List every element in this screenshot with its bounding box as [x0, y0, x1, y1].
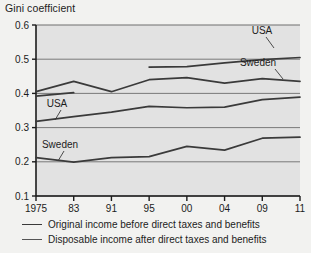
x-axis-label-5: 04 — [219, 203, 231, 214]
y-axis-label-4: 0.5 — [15, 54, 29, 65]
y-axis-label-3: 0.4 — [15, 88, 29, 99]
x-axis-label-2: 91 — [106, 203, 118, 214]
legend-label-disposable-income: Disposable income after direct taxes and… — [48, 234, 266, 245]
legend-swatch-disposable-income — [22, 239, 42, 240]
sweden-disposable-label: Sweden — [42, 139, 78, 150]
y-axis-label-5: 0.6 — [15, 20, 29, 31]
x-axis-label-1: 83 — [68, 203, 80, 214]
y-axis-label-2: 0.3 — [15, 122, 29, 133]
x-axis-label-0: 1975 — [25, 203, 48, 214]
gini-coefficient-chart: Gini coefficient 0.10.20.30.40.50.619758… — [0, 0, 311, 253]
x-axis-label-4: 00 — [181, 203, 193, 214]
y-axis-label-0: 0.1 — [15, 191, 29, 202]
y-axis-label-1: 0.2 — [15, 156, 29, 167]
legend-swatch-original-income — [22, 224, 42, 225]
legend-item-original-income: Original income before direct taxes and … — [22, 219, 260, 230]
legend-item-disposable-income: Disposable income after direct taxes and… — [22, 234, 266, 245]
plot-area-background — [36, 25, 300, 196]
x-axis-label-6: 09 — [257, 203, 269, 214]
chart-plot-svg: 0.10.20.30.40.50.6197583919500040911USAS… — [0, 0, 311, 253]
sweden-original-label: Sweden — [240, 57, 276, 68]
usa-original-label: USA — [47, 98, 68, 109]
usa-disposable-label: USA — [252, 25, 273, 36]
legend-label-original-income: Original income before direct taxes and … — [48, 219, 260, 230]
x-axis-label-7: 11 — [295, 203, 306, 214]
x-axis-label-3: 95 — [144, 203, 156, 214]
